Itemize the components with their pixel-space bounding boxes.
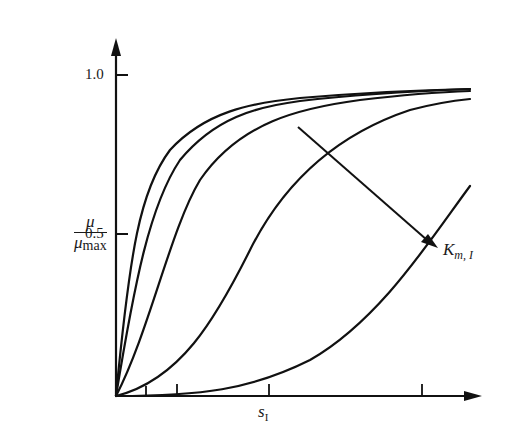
km-label-k: K (443, 240, 454, 259)
y-label-mu: μ (74, 233, 83, 252)
x-label-sub: I (265, 411, 269, 423)
y-axis-label: μ μmax (74, 212, 107, 256)
curve-5 (116, 186, 470, 396)
curve-3 (116, 91, 470, 396)
curve-1 (116, 89, 470, 396)
x-axis-label: sI (258, 402, 268, 423)
km-label-sub: m, I (454, 248, 473, 262)
x-label-s: s (258, 402, 265, 421)
y-label-max: max (83, 238, 107, 253)
y-tick-label-1: 1.0 (85, 66, 104, 83)
curve-2 (116, 89, 470, 396)
y-label-denominator: μmax (74, 233, 107, 256)
km-annotation: Km, I (443, 240, 473, 263)
y-axis-arrow-icon (111, 38, 121, 56)
curve-4 (116, 99, 470, 396)
y-label-numerator: μ (74, 212, 107, 233)
x-axis-arrow-icon (464, 391, 482, 401)
km-arrow-line (298, 127, 427, 240)
